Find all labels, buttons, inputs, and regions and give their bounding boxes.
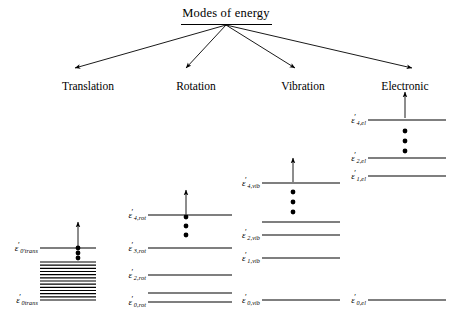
energy-modes-diagram: Modes of energy TranslationRotationVibra… <box>0 0 452 320</box>
electronic-dot-0 <box>403 129 408 134</box>
vibration-dot-0 <box>291 190 296 195</box>
branch-label-rotation: Rotation <box>176 80 216 92</box>
branch-arrow-2 <box>226 25 295 68</box>
rotation-level-label-1: ε′3,rot <box>129 244 146 253</box>
electronic-level-label-3: ε′0,el <box>351 296 366 305</box>
energy-levels <box>40 120 446 302</box>
vibration-level-label-0: ε′4,vib <box>242 179 260 188</box>
branch-label-translation: Translation <box>62 80 114 92</box>
ellipsis-dots <box>76 129 408 261</box>
translation-level-label-1: ε′0trans <box>16 296 38 305</box>
rotation-dot-2 <box>184 233 189 238</box>
electronic-level-label-0: ε′4,el <box>351 116 366 125</box>
translation-dot-0 <box>76 246 81 251</box>
vibration-dot-2 <box>291 210 296 215</box>
vibration-level-label-2: ε′2,vib <box>242 231 260 240</box>
rotation-level-label-0: ε′4,rot <box>129 211 146 220</box>
rotation-level-label-4: ε′0,rot <box>129 298 146 307</box>
rotation-level-label-2: ε′2,rot <box>129 271 146 280</box>
vibration-level-label-3: ε′1,vib <box>242 254 260 263</box>
branch-label-vibration: Vibration <box>281 80 324 92</box>
vibration-dot-1 <box>291 200 296 205</box>
rotation-dot-1 <box>184 224 189 229</box>
electronic-dot-2 <box>403 149 408 154</box>
branch-label-electronic: Electronic <box>381 80 428 92</box>
electronic-level-label-1: ε′2,el <box>351 154 366 163</box>
translation-dot-1 <box>76 251 81 256</box>
branch-arrow-0 <box>75 25 226 68</box>
branch-arrow-1 <box>186 25 226 68</box>
vibration-level-label-4: ε′0,vib <box>242 296 260 305</box>
translation-dot-2 <box>76 256 81 261</box>
electronic-dot-1 <box>403 139 408 144</box>
diagram-canvas <box>0 0 452 320</box>
rotation-dot-0 <box>184 215 189 220</box>
branch-arrow-3 <box>226 25 412 68</box>
electronic-level-label-2: ε′1,el <box>351 172 366 181</box>
translation-level-label-0: ε′0′trans <box>15 244 38 253</box>
branch-arrows <box>75 25 412 68</box>
